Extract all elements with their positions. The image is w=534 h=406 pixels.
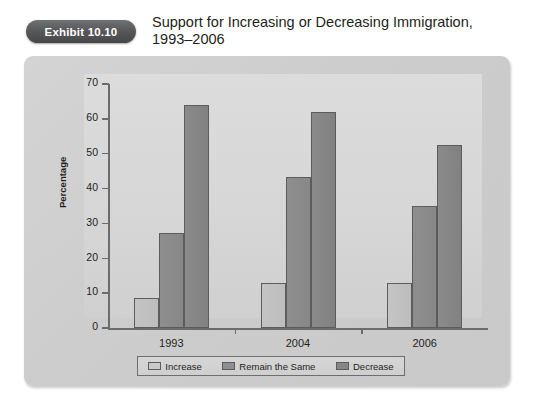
bar-2006-decrease [437,145,462,328]
chart-panel: Percentage 010203040506070 199320042006 … [24,56,510,386]
legend-item-increase: Increase [148,361,201,372]
bar-1993-decrease [184,105,209,328]
exhibit-figure: Exhibit 10.10 Support for Increasing or … [0,0,534,406]
exhibit-number-badge: Exhibit 10.10 [26,20,136,43]
bar-2004-decrease [311,112,336,328]
legend-label: Increase [165,361,201,372]
bar-2006-increase [387,283,412,328]
chart-legend: IncreaseRemain the SameDecrease [137,356,405,376]
bar-1993-remain-the-same [159,233,184,328]
legend-label: Remain the Same [239,361,315,372]
bar-2004-remain-the-same [286,177,311,328]
bar-2004-increase [261,283,286,328]
bar-1993-increase [134,298,159,328]
legend-item-remain-the-same: Remain the Same [222,361,315,372]
x-axis-label-2004: 2004 [268,337,328,349]
legend-swatch-icon [222,362,235,370]
x-axis-label-2006: 2006 [395,337,455,349]
legend-label: Decrease [353,361,394,372]
legend-swatch-icon [336,362,349,370]
figure-header: Exhibit 10.10 Support for Increasing or … [0,0,534,62]
legend-item-decrease: Decrease [336,361,394,372]
legend-swatch-icon [148,362,161,370]
x-axis-label-1993: 1993 [141,337,201,349]
figure-title: Support for Increasing or Decreasing Imm… [152,14,512,48]
bar-2006-remain-the-same [412,206,437,328]
